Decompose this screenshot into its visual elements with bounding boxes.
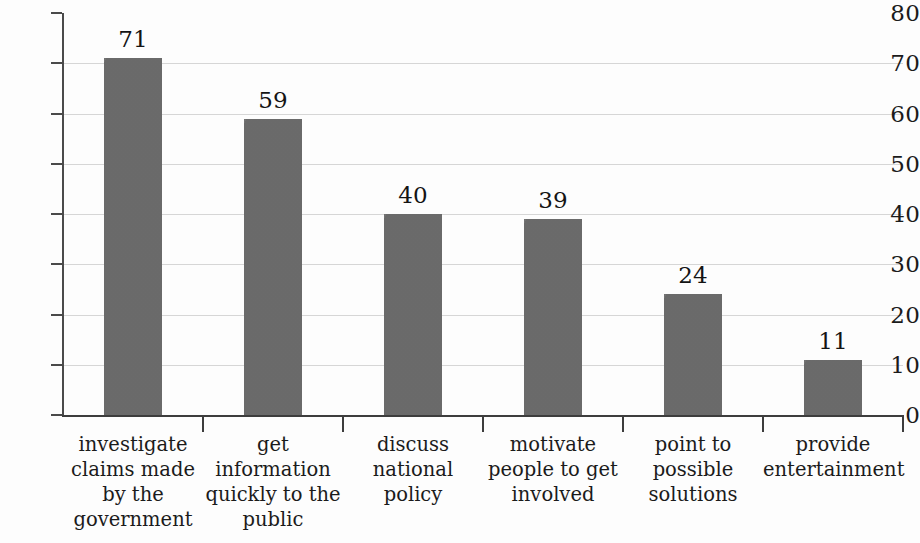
y-axis-tick-label: 10 bbox=[874, 354, 920, 377]
category-label-line: provide bbox=[763, 432, 903, 457]
gridline bbox=[63, 164, 903, 165]
x-axis-category-label: investigateclaims madeby thegovernment bbox=[63, 432, 203, 532]
bar[interactable] bbox=[244, 119, 302, 415]
category-label-line: quickly to the bbox=[203, 482, 343, 507]
gridline bbox=[63, 264, 903, 265]
y-axis-tick bbox=[51, 113, 62, 115]
gridline bbox=[63, 365, 903, 366]
category-label-line: policy bbox=[343, 482, 483, 507]
y-axis-tick bbox=[51, 314, 62, 316]
y-axis-tick bbox=[51, 163, 62, 165]
bar[interactable] bbox=[804, 360, 862, 415]
y-axis-tick bbox=[51, 263, 62, 265]
x-axis-tick bbox=[622, 417, 624, 432]
y-axis-tick bbox=[51, 364, 62, 366]
category-label-line: possible bbox=[623, 457, 763, 482]
bar[interactable] bbox=[524, 219, 582, 415]
bar[interactable] bbox=[104, 58, 162, 415]
category-label-line: by the bbox=[63, 482, 203, 507]
category-label-line: investigate bbox=[63, 432, 203, 457]
category-label-line: government bbox=[63, 507, 203, 532]
y-axis-tick bbox=[51, 414, 62, 416]
gridline bbox=[63, 315, 903, 316]
bar-value-label: 59 bbox=[223, 89, 323, 112]
y-axis-tick-label: 80 bbox=[874, 2, 920, 25]
x-axis-category-label: provideentertainment bbox=[763, 432, 903, 482]
category-label-line: motivate bbox=[483, 432, 623, 457]
gridline bbox=[63, 63, 903, 64]
x-axis-tick bbox=[202, 417, 204, 432]
y-axis-tick-label: 60 bbox=[874, 103, 920, 126]
plot-area bbox=[63, 13, 903, 415]
y-axis-tick-label: 30 bbox=[874, 253, 920, 276]
bar-value-label: 24 bbox=[643, 264, 743, 287]
y-axis-tick bbox=[51, 12, 62, 14]
bar[interactable] bbox=[664, 294, 722, 415]
y-axis-tick-label: 40 bbox=[874, 203, 920, 226]
x-axis-category-label: point topossiblesolutions bbox=[623, 432, 763, 507]
bar-value-label: 71 bbox=[83, 28, 183, 51]
category-label-line: public bbox=[203, 507, 343, 532]
category-label-line: national bbox=[343, 457, 483, 482]
y-axis-tick-label: 50 bbox=[874, 153, 920, 176]
y-axis-line bbox=[62, 13, 64, 416]
bar[interactable] bbox=[384, 214, 442, 415]
bar-value-label: 11 bbox=[783, 330, 883, 353]
bar-chart: 01020304050607080 715940392411 investiga… bbox=[0, 0, 920, 543]
bar-value-label: 40 bbox=[363, 184, 463, 207]
gridline bbox=[63, 114, 903, 115]
x-axis-tick bbox=[902, 417, 904, 432]
y-axis-tick-label: 70 bbox=[874, 52, 920, 75]
gridline bbox=[63, 214, 903, 215]
x-axis-category-label: motivatepeople to getinvolved bbox=[483, 432, 623, 507]
category-label-line: solutions bbox=[623, 482, 763, 507]
category-label-line: involved bbox=[483, 482, 623, 507]
x-axis-tick bbox=[482, 417, 484, 432]
category-label-line: point to bbox=[623, 432, 763, 457]
x-axis-tick bbox=[342, 417, 344, 432]
category-label-line: entertainment bbox=[763, 457, 903, 482]
bar-value-label: 39 bbox=[503, 189, 603, 212]
category-label-line: claims made bbox=[63, 457, 203, 482]
x-axis-tick bbox=[762, 417, 764, 432]
y-axis-tick bbox=[51, 213, 62, 215]
category-label-line: information bbox=[203, 457, 343, 482]
category-label-line: discuss bbox=[343, 432, 483, 457]
category-label-line: people to get bbox=[483, 457, 623, 482]
y-axis-tick bbox=[51, 62, 62, 64]
x-axis-category-label: getinformationquickly to thepublic bbox=[203, 432, 343, 532]
category-label-line: get bbox=[203, 432, 343, 457]
y-axis-tick-label: 20 bbox=[874, 304, 920, 327]
x-axis-category-label: discussnationalpolicy bbox=[343, 432, 483, 507]
